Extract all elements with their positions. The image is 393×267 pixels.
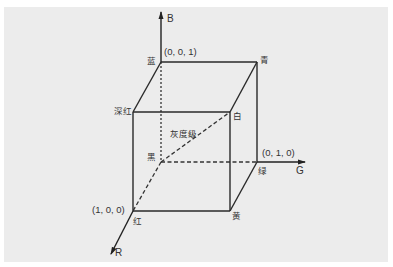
grayscale-label: 灰度级 [170, 129, 197, 139]
green-coordinate: (0, 1, 0) [262, 147, 295, 158]
edge-blue-magenta [133, 62, 161, 112]
vertex-label-green: 绿 [258, 166, 267, 176]
blue-coordinate: (0, 0, 1) [164, 46, 197, 57]
vertex-label-red: 红 [133, 216, 142, 226]
edge-cyan-white [230, 62, 257, 112]
vertex-label-white: 白 [233, 111, 242, 121]
vertex-label-magenta: 深红 [114, 106, 132, 116]
rgb-cube-diagram: B G R (0, 0, 1) (0, 1, 0) (1, 0, 0) 蓝 青 … [0, 0, 393, 267]
red-coordinate: (1, 0, 0) [92, 204, 125, 215]
vertex-label-yellow: 黄 [232, 211, 241, 221]
b-axis-label: B [167, 13, 174, 24]
vertex-label-cyan: 青 [260, 55, 269, 65]
vertex-label-blue: 蓝 [147, 56, 156, 66]
edge-black-red [133, 162, 161, 211]
g-axis-label: G [296, 165, 304, 176]
r-axis-label: R [115, 247, 122, 258]
edge-yellow-green [230, 162, 257, 211]
vertex-label-black: 黑 [147, 152, 156, 162]
